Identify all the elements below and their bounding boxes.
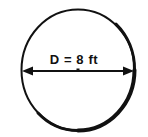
circle-diagram-svg [0, 0, 148, 137]
diameter-label: D = 8 ft [0, 52, 148, 67]
center-point-marker [77, 69, 80, 72]
circle-diameter-figure: D = 8 ft [0, 0, 148, 137]
